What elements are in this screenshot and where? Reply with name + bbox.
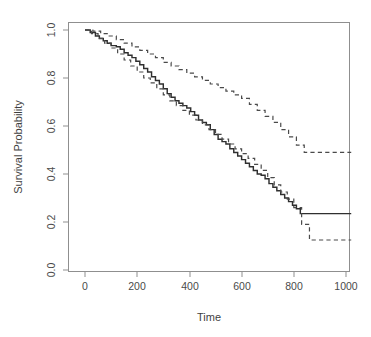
x-tick-label-600: 600 [233, 280, 251, 292]
y-tick-label-1.0: 1.0 [45, 23, 57, 38]
x-tick-label-400: 400 [181, 280, 199, 292]
y-axis-ticks [63, 30, 69, 270]
survival-plot-figure: 1.0 0.8 0.6 0.4 0.2 0.0 0 200 400 600 80… [0, 0, 371, 337]
plot-frame [69, 23, 350, 272]
y-tick-label-0.8: 0.8 [45, 71, 57, 86]
x-tick-label-800: 800 [285, 280, 303, 292]
y-tick-label-0.0: 0.0 [45, 263, 57, 278]
y-tick-label-0.4: 0.4 [45, 167, 57, 182]
x-tick-label-200: 200 [128, 280, 146, 292]
y-tick-label-0.6: 0.6 [45, 119, 57, 134]
y-axis-tick-labels: 1.0 0.8 0.6 0.4 0.2 0.0 [45, 23, 57, 278]
y-axis-title: Survival Probability [12, 100, 24, 194]
x-axis-ticks [85, 272, 346, 278]
x-tick-label-0: 0 [82, 280, 88, 292]
lower-confidence-curve [85, 30, 351, 240]
x-axis-title: Time [197, 311, 221, 323]
y-tick-label-0.2: 0.2 [45, 215, 57, 230]
survival-curves-group [85, 30, 351, 240]
x-tick-label-1000: 1000 [334, 280, 358, 292]
km-estimate-curve [85, 30, 351, 214]
plot-canvas: 1.0 0.8 0.6 0.4 0.2 0.0 0 200 400 600 80… [0, 0, 371, 337]
x-axis-tick-labels: 0 200 400 600 800 1000 [82, 280, 358, 292]
